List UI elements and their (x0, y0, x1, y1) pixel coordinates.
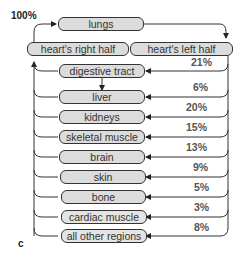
organ-pct-cardiac-muscle: 3% (194, 201, 209, 213)
organ-box-kidneys: kidneys (59, 110, 145, 124)
organ-pct-digestive-tract: 21% (191, 56, 212, 68)
organ-box-skin: skin (60, 170, 146, 184)
heart-left-half-box: heart's left half (130, 42, 233, 56)
organ-pct-kidneys: 20% (186, 101, 207, 113)
heart-right-half-box: heart's right half (27, 42, 129, 56)
organ-pct-skin: 9% (193, 161, 208, 173)
panel-label: c (18, 238, 24, 249)
organ-box-digestive-tract: digestive tract (59, 64, 145, 78)
organ-box-all-other-regions: all other regions (61, 229, 147, 243)
organ-box-skeletal-muscle: skeletal muscle (59, 130, 145, 144)
organ-box-liver: liver (59, 90, 145, 104)
organ-pct-skeletal-muscle: 15% (186, 121, 207, 133)
organ-box-bone: bone (61, 190, 146, 204)
lungs-box: lungs (58, 17, 144, 31)
organ-pct-bone: 5% (194, 181, 209, 193)
organ-box-brain: brain (59, 150, 145, 164)
organ-pct-liver: 6% (193, 81, 208, 93)
total-flow-label: 100% (11, 10, 37, 21)
organ-box-cardiac-muscle: cardiac muscle (61, 210, 147, 224)
organ-pct-brain: 13% (186, 141, 207, 153)
organ-pct-all-other-regions: 8% (194, 221, 209, 233)
